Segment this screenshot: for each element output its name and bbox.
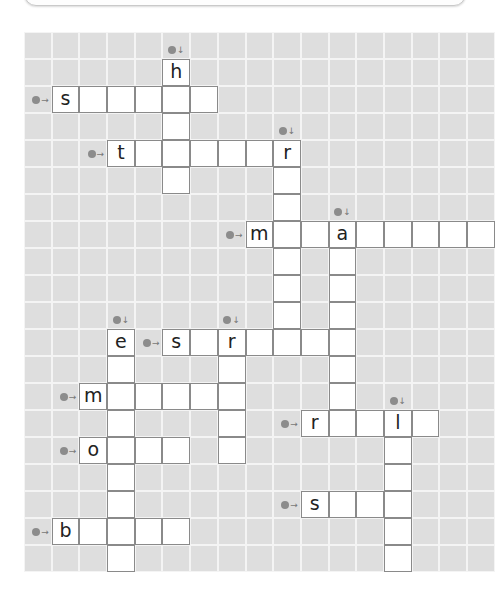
answer-cell[interactable]: o — [79, 437, 107, 464]
answer-cell[interactable] — [329, 275, 357, 302]
answer-cell[interactable] — [218, 437, 246, 464]
answer-cell[interactable] — [329, 491, 357, 518]
background-cell — [467, 167, 495, 194]
answer-cell[interactable] — [218, 356, 246, 383]
background-cell — [246, 194, 274, 221]
answer-cell[interactable]: s — [52, 86, 80, 113]
answer-cell[interactable] — [273, 221, 301, 248]
answer-cell[interactable] — [273, 248, 301, 275]
background-cell — [246, 491, 274, 518]
answer-cell[interactable] — [218, 140, 246, 167]
background-cell — [412, 491, 440, 518]
answer-cell[interactable]: s — [301, 491, 329, 518]
answer-cell[interactable]: r — [218, 329, 246, 356]
answer-cell[interactable] — [246, 140, 274, 167]
answer-cell[interactable] — [162, 383, 190, 410]
answer-cell[interactable] — [135, 140, 163, 167]
answer-cell[interactable] — [356, 491, 384, 518]
answer-cell[interactable] — [162, 86, 190, 113]
answer-cell[interactable] — [218, 410, 246, 437]
answer-cell[interactable] — [107, 464, 135, 491]
answer-cell[interactable] — [467, 221, 495, 248]
answer-cell[interactable] — [79, 86, 107, 113]
answer-cell[interactable] — [273, 329, 301, 356]
answer-cell[interactable] — [107, 491, 135, 518]
answer-cell[interactable] — [190, 329, 218, 356]
answer-cell[interactable] — [162, 140, 190, 167]
background-cell — [412, 545, 440, 572]
background-cell — [384, 329, 412, 356]
answer-cell[interactable] — [107, 545, 135, 572]
answer-cell[interactable] — [329, 302, 357, 329]
answer-cell[interactable] — [246, 329, 274, 356]
answer-cell[interactable] — [162, 437, 190, 464]
answer-cell[interactable] — [162, 113, 190, 140]
answer-cell[interactable] — [412, 410, 440, 437]
answer-cell[interactable] — [273, 302, 301, 329]
answer-cell[interactable]: b — [52, 518, 80, 545]
answer-cell[interactable] — [162, 167, 190, 194]
answer-cell[interactable] — [384, 221, 412, 248]
background-cell — [218, 113, 246, 140]
answer-cell[interactable] — [356, 221, 384, 248]
answer-cell[interactable] — [107, 518, 135, 545]
answer-cell[interactable] — [329, 383, 357, 410]
answer-cell[interactable] — [384, 437, 412, 464]
answer-cell[interactable] — [107, 437, 135, 464]
answer-cell[interactable]: r — [301, 410, 329, 437]
answer-cell[interactable] — [301, 221, 329, 248]
answer-cell[interactable]: e — [107, 329, 135, 356]
background-cell — [412, 32, 440, 59]
background-cell — [301, 59, 329, 86]
answer-cell[interactable] — [439, 221, 467, 248]
clue-marker: → — [88, 149, 105, 159]
answer-cell[interactable] — [218, 383, 246, 410]
answer-cell[interactable]: m — [79, 383, 107, 410]
answer-cell[interactable] — [384, 545, 412, 572]
background-cell — [107, 32, 135, 59]
answer-cell[interactable] — [412, 221, 440, 248]
answer-cell[interactable] — [107, 383, 135, 410]
clue-marker: ↓ — [113, 315, 130, 325]
answer-cell[interactable] — [135, 437, 163, 464]
given-letter: h — [170, 62, 182, 81]
answer-cell[interactable] — [79, 518, 107, 545]
background-cell — [52, 356, 80, 383]
answer-cell[interactable] — [190, 140, 218, 167]
answer-cell[interactable] — [384, 491, 412, 518]
background-cell — [356, 383, 384, 410]
answer-cell[interactable]: t — [107, 140, 135, 167]
answer-cell[interactable] — [329, 410, 357, 437]
answer-cell[interactable] — [384, 518, 412, 545]
answer-cell[interactable] — [107, 356, 135, 383]
background-cell — [301, 140, 329, 167]
answer-cell[interactable]: a — [329, 221, 357, 248]
answer-cell[interactable] — [329, 356, 357, 383]
answer-cell[interactable] — [135, 383, 163, 410]
answer-cell[interactable] — [273, 275, 301, 302]
answer-cell[interactable] — [329, 329, 357, 356]
answer-cell[interactable] — [273, 194, 301, 221]
background-cell — [439, 410, 467, 437]
answer-cell[interactable] — [107, 86, 135, 113]
answer-cell[interactable] — [190, 86, 218, 113]
answer-cell[interactable] — [135, 518, 163, 545]
arrow-right-icon: → — [69, 392, 77, 402]
answer-cell[interactable] — [301, 329, 329, 356]
answer-cell[interactable] — [356, 410, 384, 437]
background-cell — [190, 356, 218, 383]
answer-cell[interactable]: r — [273, 140, 301, 167]
answer-cell[interactable]: l — [384, 410, 412, 437]
answer-cell[interactable]: h — [162, 59, 190, 86]
answer-cell[interactable] — [273, 167, 301, 194]
background-cell — [218, 545, 246, 572]
answer-cell[interactable] — [135, 86, 163, 113]
answer-cell[interactable] — [107, 410, 135, 437]
answer-cell[interactable]: m — [246, 221, 274, 248]
answer-cell[interactable] — [190, 383, 218, 410]
answer-cell[interactable]: s — [162, 329, 190, 356]
answer-cell[interactable] — [162, 518, 190, 545]
background-cell — [439, 86, 467, 113]
answer-cell[interactable] — [384, 464, 412, 491]
answer-cell[interactable] — [329, 248, 357, 275]
